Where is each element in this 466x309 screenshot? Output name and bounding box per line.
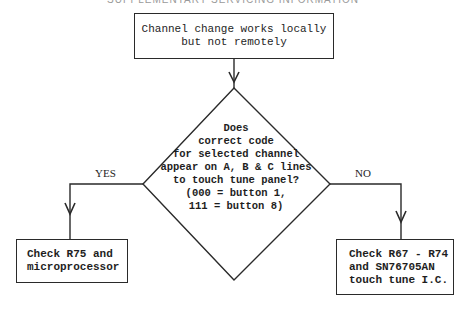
connector-no xyxy=(330,184,401,239)
connector-yes xyxy=(70,184,143,239)
yes-action-text: Check R75 and microprocessor xyxy=(27,248,119,274)
start-box: Channel change works locally but not rem… xyxy=(134,13,334,59)
start-text: Channel change works locally but not rem… xyxy=(142,23,327,49)
yes-action-box: Check R75 and microprocessor xyxy=(16,239,128,283)
decision-text: Does correct code for selected channel a… xyxy=(150,122,322,213)
no-action-box: Check R67 - R74 and SN76705AN touch tune… xyxy=(336,239,454,295)
yes-label: YES xyxy=(95,167,116,179)
no-label: NO xyxy=(355,167,371,179)
no-action-text: Check R67 - R74 and SN76705AN touch tune… xyxy=(349,248,448,287)
